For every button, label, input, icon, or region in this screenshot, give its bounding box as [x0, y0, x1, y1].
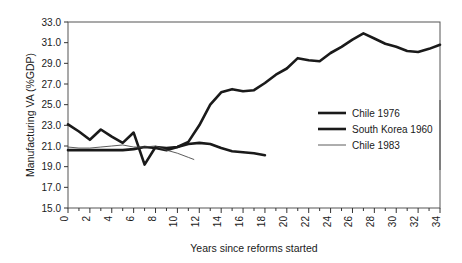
- x-tick-label: 18: [256, 216, 267, 228]
- x-tick-label: 16: [234, 216, 245, 228]
- x-tick-label: 0: [59, 216, 70, 222]
- y-tick-label: 17.0: [42, 182, 62, 193]
- x-tick-label: 20: [278, 216, 289, 228]
- y-tick-label: 23.0: [42, 120, 62, 131]
- x-tick-label: 6: [125, 216, 136, 222]
- y-axis-ticks: [64, 22, 68, 208]
- x-tick-label: 32: [409, 216, 420, 228]
- x-axis-title: Years since reforms started: [190, 242, 318, 254]
- x-tick-label: 22: [300, 216, 311, 228]
- legend-label-0: Chile 1976: [352, 108, 400, 119]
- x-tick-label: 2: [81, 216, 92, 222]
- legend-label-1: South Korea 1960: [352, 124, 433, 135]
- x-tick-label: 8: [147, 216, 158, 222]
- x-tick-label: 10: [168, 216, 179, 228]
- y-tick-label: 15.0: [42, 203, 62, 214]
- x-axis-tick-labels: 0246810121416182022242628303234: [59, 216, 442, 228]
- x-axis-minor-ticks: [68, 208, 440, 213]
- x-tick-label: 30: [387, 216, 398, 228]
- x-tick-label: 4: [103, 216, 114, 222]
- x-tick-label: 12: [190, 216, 201, 228]
- x-tick-label: 34: [431, 216, 442, 228]
- x-tick-label: 24: [322, 216, 333, 228]
- y-tick-label: 27.0: [42, 79, 62, 90]
- x-tick-label: 28: [365, 216, 376, 228]
- x-tick-label: 14: [212, 216, 223, 228]
- y-tick-label: 31.0: [42, 37, 62, 48]
- y-tick-label: 25.0: [42, 99, 62, 110]
- y-tick-label: 29.0: [42, 58, 62, 69]
- chart-container: 15.017.019.021.023.025.027.029.031.033.0…: [0, 0, 462, 263]
- legend-label-2: Chile 1983: [352, 140, 400, 151]
- x-tick-label: 26: [343, 216, 354, 228]
- y-axis-tick-labels: 15.017.019.021.023.025.027.029.031.033.0: [42, 17, 62, 214]
- y-axis-title: Manufacturing VA (%GDP): [24, 53, 36, 177]
- line-chart: 15.017.019.021.023.025.027.029.031.033.0…: [0, 0, 462, 263]
- y-tick-label: 21.0: [42, 141, 62, 152]
- y-tick-label: 19.0: [42, 161, 62, 172]
- y-tick-label: 33.0: [42, 17, 62, 28]
